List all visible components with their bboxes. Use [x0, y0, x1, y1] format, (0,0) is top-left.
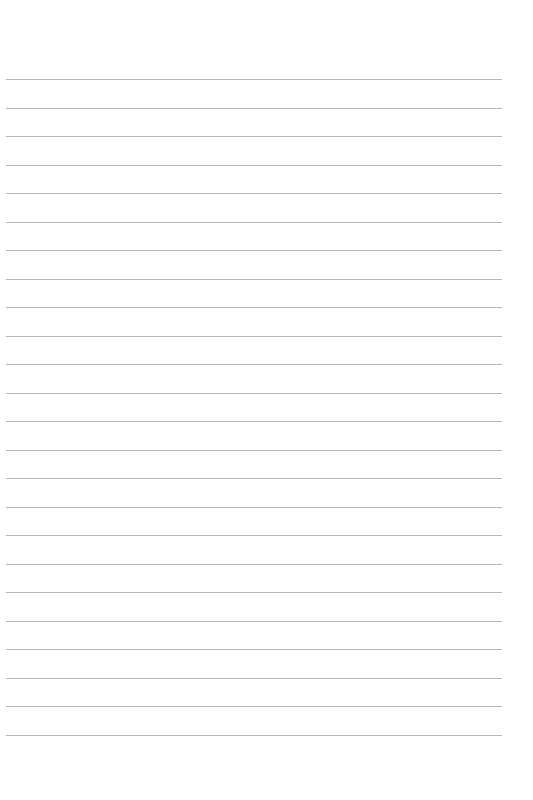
ruled-line	[6, 421, 502, 422]
ruled-line	[6, 507, 502, 508]
ruled-line	[6, 649, 502, 650]
ruled-line	[6, 336, 502, 337]
ruled-line	[6, 250, 502, 251]
ruled-line	[6, 735, 502, 736]
ruled-line	[6, 393, 502, 394]
ruled-line	[6, 307, 502, 308]
ruled-line	[6, 222, 502, 223]
ruled-line	[6, 108, 502, 109]
ruled-line	[6, 478, 502, 479]
ruled-line	[6, 706, 502, 707]
ruled-line	[6, 193, 502, 194]
ruled-line	[6, 450, 502, 451]
ruled-line	[6, 279, 502, 280]
ruled-line	[6, 364, 502, 365]
ruled-line	[6, 592, 502, 593]
ruled-line	[6, 678, 502, 679]
ruled-line	[6, 564, 502, 565]
ruled-line	[6, 79, 502, 80]
ruled-line	[6, 535, 502, 536]
ruled-line	[6, 136, 502, 137]
ruled-line	[6, 165, 502, 166]
ruled-line	[6, 621, 502, 622]
